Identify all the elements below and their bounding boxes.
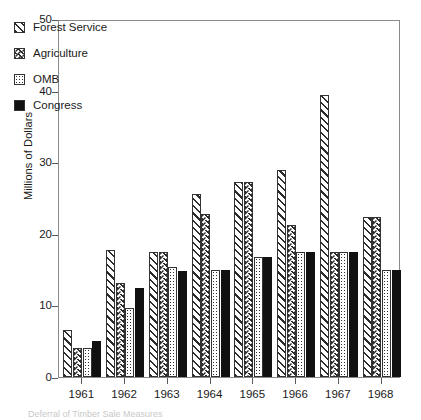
legend: Forest ServiceAgricultureOMBCongress <box>14 17 107 121</box>
plot-area <box>58 20 400 378</box>
bar <box>287 225 296 377</box>
bar <box>135 288 144 377</box>
bar <box>349 252 358 377</box>
bar <box>392 270 401 377</box>
y-tick-mark <box>52 20 58 21</box>
bar-group <box>320 21 358 377</box>
legend-item: OMB <box>14 69 107 90</box>
y-tick-mark <box>52 235 58 236</box>
legend-item: Forest Service <box>14 17 107 38</box>
bar-group <box>192 21 230 377</box>
dotted-swatch <box>14 74 25 85</box>
bar <box>306 252 315 377</box>
bar-group <box>149 21 187 377</box>
bar-group <box>277 21 315 377</box>
bar <box>83 348 92 377</box>
bar <box>168 267 177 377</box>
x-tick-mark <box>381 378 382 384</box>
legend-label: Forest Service <box>33 22 107 34</box>
legend-item: Congress <box>14 95 107 116</box>
x-tick-mark <box>124 378 125 384</box>
bars-container <box>59 21 399 377</box>
bar <box>63 330 72 377</box>
x-tick-mark <box>210 378 211 384</box>
bar <box>92 341 101 377</box>
y-tick-label: 10 <box>26 300 52 312</box>
bar <box>254 257 263 377</box>
chevron-hatch-swatch <box>14 48 25 59</box>
bar <box>339 252 348 377</box>
y-tick-mark <box>52 92 58 93</box>
bar <box>149 252 158 377</box>
bar-group <box>234 21 272 377</box>
y-tick-label: 30 <box>26 157 52 169</box>
bar <box>178 271 187 377</box>
bar <box>263 257 272 377</box>
bar-chart: Millions of Dollars 01020304050 Forest S… <box>0 0 421 420</box>
diagonal-hatch-swatch <box>14 22 25 33</box>
bar <box>159 252 168 377</box>
bar <box>363 217 372 377</box>
y-tick-mark <box>52 378 58 379</box>
y-tick-label: 0 <box>26 372 52 384</box>
x-tick-mark <box>252 378 253 384</box>
bar <box>382 270 391 377</box>
x-tick-mark <box>167 378 168 384</box>
x-tick-mark <box>81 378 82 384</box>
bar <box>211 270 220 377</box>
bar <box>73 348 82 377</box>
bar-group <box>363 21 401 377</box>
x-tick-mark <box>338 378 339 384</box>
y-tick-mark <box>52 163 58 164</box>
bar <box>221 270 230 377</box>
x-tick-label: 1968 <box>356 388 406 400</box>
bar <box>192 194 201 377</box>
y-tick-label: 20 <box>26 229 52 241</box>
bar <box>116 283 125 378</box>
bar <box>296 252 305 377</box>
solid-black-swatch <box>14 100 25 111</box>
legend-label: Congress <box>33 100 82 112</box>
legend-item: Agriculture <box>14 43 107 64</box>
bar <box>106 250 115 377</box>
bar <box>125 308 134 377</box>
figure-caption: Deferral of Timber Sale Measures <box>28 409 418 419</box>
y-tick-mark <box>52 306 58 307</box>
bar-group <box>106 21 144 377</box>
bar <box>330 252 339 377</box>
bar <box>372 217 381 377</box>
bar <box>320 95 329 377</box>
bar <box>244 182 253 377</box>
bar <box>201 214 210 377</box>
bar <box>277 170 286 377</box>
legend-label: Agriculture <box>33 48 88 60</box>
legend-label: OMB <box>33 74 59 86</box>
bar <box>234 182 243 377</box>
x-tick-mark <box>295 378 296 384</box>
